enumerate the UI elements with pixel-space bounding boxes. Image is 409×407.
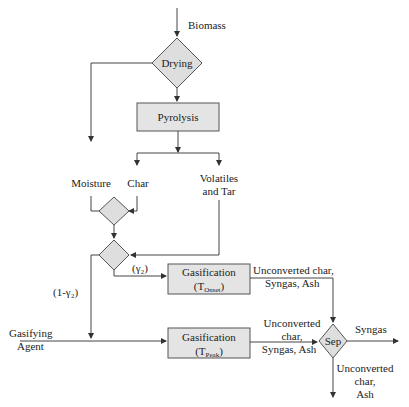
sep-out-label-2: char, bbox=[354, 375, 375, 387]
syngas-label: Syngas bbox=[355, 323, 387, 335]
mixer-1-node bbox=[99, 197, 129, 225]
gasifying-agent-label-2: Agent bbox=[17, 340, 44, 352]
drying-label: Drying bbox=[161, 57, 193, 69]
pyrolysis-label: Pyrolysis bbox=[158, 111, 199, 123]
peak-out-label-3: Syngas, Ash bbox=[262, 343, 317, 355]
mixer-2-node bbox=[99, 240, 129, 270]
gasification-onset-label: Gasification bbox=[182, 266, 236, 278]
char-label: Char bbox=[127, 177, 149, 189]
gasifying-agent-label-1: Gasifying bbox=[9, 327, 53, 339]
sep-out-label-1: Unconverted bbox=[337, 362, 394, 374]
moisture-label: Moisture bbox=[71, 177, 111, 189]
char-to-mixer-arrow bbox=[129, 196, 137, 211]
one-minus-gamma2-label: (1-γ₂) bbox=[53, 286, 79, 299]
onset-out-label-2: Syngas, Ash bbox=[265, 277, 320, 289]
volatiles-label-2: and Tar bbox=[203, 185, 236, 197]
biomass-label: Biomass bbox=[188, 19, 226, 31]
gasification-peak-label: Gasification bbox=[182, 331, 236, 343]
sep-out-label-3: Ash bbox=[356, 388, 374, 400]
gamma2-label: (γ₂) bbox=[132, 262, 148, 275]
onset-out-label-1: Unconverted char, bbox=[253, 264, 334, 276]
one-minus-gamma2-arrow bbox=[91, 255, 99, 338]
peak-out-label-1: Unconverted bbox=[264, 317, 321, 329]
volatiles-to-mixer-2-arrow bbox=[131, 200, 219, 255]
gasification-flowchart: Biomass Drying Pyrolysis Moisture Char V… bbox=[0, 0, 409, 407]
volatiles-label-1: Volatiles bbox=[200, 172, 238, 184]
peak-out-label-2: char, bbox=[281, 330, 302, 342]
separator-label: Sep bbox=[325, 335, 342, 347]
